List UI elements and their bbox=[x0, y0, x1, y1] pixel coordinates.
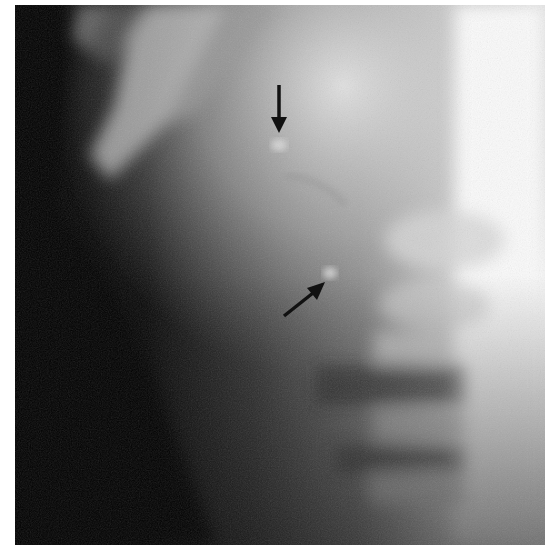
radiograph-svg bbox=[15, 5, 545, 545]
radiograph-image bbox=[15, 5, 545, 545]
